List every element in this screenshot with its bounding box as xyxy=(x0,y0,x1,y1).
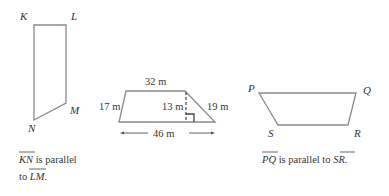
pqrs-caption: PQ is parallel to SR. xyxy=(261,152,355,165)
caption-line-1: KN is parallel xyxy=(18,154,77,165)
vertex-s-label: S xyxy=(268,127,274,139)
trapezoid-pqrs: P Q R S xyxy=(247,82,371,139)
right-length-label: 19 m xyxy=(207,101,228,112)
vertex-l-label: L xyxy=(70,10,77,22)
bottom-length-label: 46 m xyxy=(153,128,174,139)
caption-text: is parallel xyxy=(33,154,77,165)
caption-text: . xyxy=(345,154,348,165)
right-angle-icon xyxy=(186,114,194,122)
caption-text: to xyxy=(19,171,30,182)
segment-pq: PQ xyxy=(261,154,276,165)
vertex-p-label: P xyxy=(247,82,255,94)
top-length-label: 32 m xyxy=(145,76,166,87)
segment-lm: LM xyxy=(29,171,46,182)
quadrilateral-klmn: K L M N xyxy=(19,10,80,134)
caption-text: . xyxy=(44,171,47,182)
caption-line-2: to LM. xyxy=(19,171,47,182)
right-arrowhead-icon xyxy=(211,132,215,135)
pqrs-outline xyxy=(259,93,356,125)
segment-sr: SR xyxy=(333,154,345,165)
height-length-label: 13 m xyxy=(162,101,183,112)
segment-kn: KN xyxy=(18,154,34,165)
vertex-k-label: K xyxy=(19,10,28,22)
left-length-label: 17 m xyxy=(99,101,120,112)
klmn-caption: KN is parallel to LM. xyxy=(18,152,77,182)
vertex-n-label: N xyxy=(27,122,36,134)
vertex-m-label: M xyxy=(69,104,80,116)
left-arrowhead-icon xyxy=(120,132,124,135)
vertex-r-label: R xyxy=(353,127,361,139)
vertex-q-label: Q xyxy=(363,84,371,96)
trapezoid-measured: 32 m 17 m 13 m 19 m 46 m xyxy=(99,76,228,139)
caption-text: is parallel to xyxy=(276,154,333,165)
klmn-outline xyxy=(34,25,66,120)
geometry-figures: K L M N KN is parallel to LM. 32 m 17 m … xyxy=(0,0,389,196)
caption-line: PQ is parallel to SR. xyxy=(261,154,347,165)
